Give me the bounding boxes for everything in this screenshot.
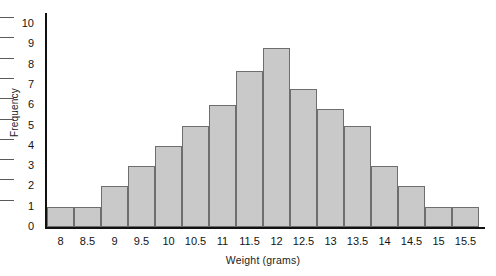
y-tick-label: 6 (14, 99, 34, 110)
histogram-bar (290, 89, 317, 227)
histogram-bar (344, 126, 371, 228)
x-axis-title: Weight (grams) (163, 254, 363, 266)
y-tick-label: 2 (14, 180, 34, 191)
y-tick-mark (0, 119, 14, 120)
y-tick-label: 4 (14, 140, 34, 151)
y-tick-label: 7 (14, 79, 34, 90)
y-tick-label: 1 (14, 201, 34, 212)
x-tick-label: 15.5 (446, 236, 485, 247)
histogram-bar (182, 126, 209, 228)
histogram-chart: Frequency 012345678910 88.599.51010.5111… (0, 0, 496, 276)
y-tick-label: 10 (14, 18, 34, 29)
y-tick-mark (0, 159, 14, 160)
y-tick-mark (0, 179, 14, 180)
histogram-bar (371, 166, 398, 227)
histogram-bar (155, 146, 182, 227)
y-tick-label: 8 (14, 59, 34, 70)
histogram-bar (236, 71, 263, 227)
y-tick-mark (0, 58, 14, 59)
y-tick-mark (0, 200, 14, 201)
x-axis-line (45, 227, 485, 229)
y-tick-label: 3 (14, 160, 34, 171)
histogram-bar (263, 48, 290, 227)
histogram-bar (209, 105, 236, 227)
histogram-bar (452, 207, 479, 227)
y-tick-mark (0, 17, 14, 18)
histogram-bar (128, 166, 155, 227)
histogram-bar (101, 186, 128, 227)
y-axis-line (45, 13, 47, 227)
y-tick-mark (0, 98, 14, 99)
y-tick-mark (0, 78, 14, 79)
y-tick-mark (0, 139, 14, 140)
histogram-bar (47, 207, 74, 227)
y-tick-label: 9 (14, 38, 34, 49)
y-tick-mark (0, 37, 14, 38)
y-tick-label: 0 (14, 221, 34, 232)
y-tick-label: 5 (14, 120, 34, 131)
histogram-bar (317, 109, 344, 227)
histogram-bar (74, 207, 101, 227)
histogram-bar (398, 186, 425, 227)
histogram-bar (425, 207, 452, 227)
